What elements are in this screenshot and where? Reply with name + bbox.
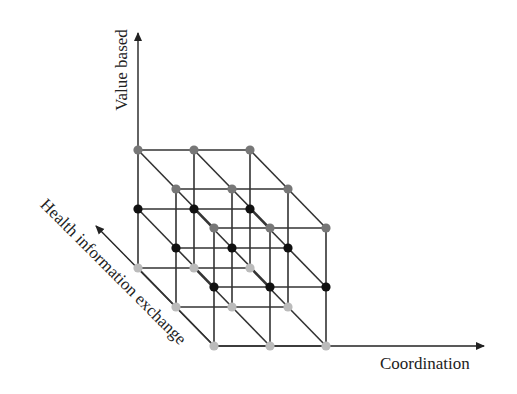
node-bottom	[321, 341, 330, 350]
node-bottom	[265, 341, 274, 350]
node-middle	[283, 243, 292, 252]
node-middle	[171, 243, 180, 252]
edge-depth	[250, 150, 288, 189]
cube-diagram	[0, 0, 517, 394]
node-top	[321, 223, 330, 232]
node-top	[245, 145, 254, 154]
edge-depth	[288, 189, 326, 228]
edge-depth	[138, 150, 176, 189]
node-middle	[209, 282, 218, 291]
node-bottom	[171, 302, 180, 311]
node-middle	[321, 282, 330, 291]
node-bottom	[189, 263, 198, 272]
node-top	[227, 184, 236, 193]
edge-depth	[288, 307, 326, 346]
edge-depth	[194, 150, 232, 189]
node-middle	[189, 204, 198, 213]
node-bottom	[209, 341, 218, 350]
node-top	[133, 145, 142, 154]
axis-label-coordination: Coordination	[380, 354, 470, 374]
axis-label-value-based: Value based	[112, 29, 132, 111]
edge-depth	[288, 248, 326, 287]
node-bottom	[283, 302, 292, 311]
node-bottom	[133, 263, 142, 272]
node-bottom	[245, 263, 254, 272]
node-middle	[265, 282, 274, 291]
node-middle	[245, 204, 254, 213]
node-top	[209, 223, 218, 232]
node-top	[283, 184, 292, 193]
edge-depth	[232, 307, 270, 346]
node-top	[265, 223, 274, 232]
edge-depth	[138, 209, 176, 248]
node-top	[171, 184, 180, 193]
node-top	[189, 145, 198, 154]
node-bottom	[227, 302, 236, 311]
node-middle	[133, 204, 142, 213]
node-middle	[227, 243, 236, 252]
